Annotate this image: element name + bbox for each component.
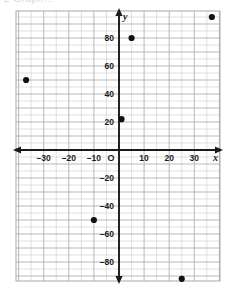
data-point	[23, 77, 29, 83]
y-tick-label: 40	[105, 89, 115, 99]
y-tick-label: –20	[100, 173, 114, 183]
x-tick-label: 30	[190, 153, 200, 163]
y-tick-label: 80	[105, 33, 115, 43]
x-tick-label: –30	[37, 153, 51, 163]
y-tick-label: 20	[105, 117, 115, 127]
data-point	[128, 35, 134, 41]
scatter-plot: –30–20–1010203080604020–20–40–60–80O xy	[0, 0, 234, 286]
grid-border	[16, 11, 220, 281]
y-tick-label: –40	[100, 201, 114, 211]
axes	[13, 8, 223, 284]
data-point	[179, 276, 185, 282]
x-tick-label: 20	[164, 153, 174, 163]
data-point	[118, 116, 124, 122]
x-tick-label: 10	[139, 153, 149, 163]
grid-minor	[16, 11, 220, 281]
y-tick-label: –80	[100, 257, 114, 267]
grid-major	[16, 11, 220, 281]
x-tick-label: –20	[62, 153, 76, 163]
coordinate-graph-figure: 2 Graph... –30–20–1010203080604020–20–40…	[0, 0, 234, 286]
x-axis-name: x	[212, 152, 218, 163]
x-tick-label: –10	[87, 153, 101, 163]
y-tick-label: –60	[100, 229, 114, 239]
y-tick-label: 60	[105, 61, 115, 71]
data-point	[91, 217, 97, 223]
y-axis-name: y	[122, 11, 128, 22]
origin-label: O	[107, 153, 114, 163]
data-point	[209, 14, 215, 20]
